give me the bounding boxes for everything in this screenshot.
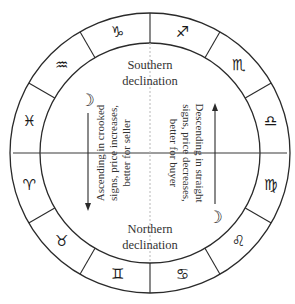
zodiac-declination-diagram: ♑︎♐︎♏︎♎︎♍︎♌︎♋︎♊︎♉︎♈︎♓︎♒︎ Southern declin… (0, 0, 295, 304)
taurus-icon: ♉︎ (55, 232, 68, 250)
gemini-icon: ♊︎ (111, 265, 124, 283)
pisces-icon: ♓︎ (23, 112, 36, 130)
right-text-line2: signs, price decreases, (181, 104, 193, 202)
sign-divider (29, 83, 55, 98)
southern-label-line1: Southern (127, 58, 173, 72)
northern-label-line2: declination (122, 238, 178, 252)
sign-divider (205, 248, 220, 274)
left-text-line1: Ascending in crooked (94, 104, 106, 201)
left-text-line2: signs, price increases, (107, 105, 119, 201)
left-text-line3: better for seller (120, 119, 132, 187)
southern-label-line2: declination (122, 74, 178, 88)
scorpio-icon: ♏︎ (232, 56, 246, 74)
sign-divider (29, 208, 55, 223)
leo-icon: ♌︎ (232, 232, 245, 250)
right-text-line3: better for buyer (168, 119, 180, 188)
sign-divider (245, 83, 271, 98)
arrow-up-icon (212, 103, 218, 111)
aquarius-icon: ♒︎ (55, 56, 68, 74)
right-rotated-text: Descending in straight signs, price decr… (168, 104, 206, 203)
sign-divider (205, 32, 220, 58)
sign-divider (80, 248, 95, 274)
aries-icon: ♈︎ (23, 176, 36, 194)
moon-icon-right: ☽ (207, 207, 222, 227)
left-rotated-text: Ascending in crooked signs, price increa… (94, 104, 132, 201)
cancer-icon: ♋︎ (176, 265, 189, 283)
sign-divider (80, 32, 95, 58)
arrow-down-icon (85, 203, 91, 211)
sign-divider (245, 208, 271, 223)
capricorn-icon: ♑︎ (111, 23, 124, 41)
moon-icon-left: ☽ (79, 90, 94, 110)
right-text-line1: Descending in straight (194, 104, 206, 203)
northern-label-line1: Northern (127, 222, 173, 236)
libra-icon: ♎︎ (264, 112, 277, 130)
sagittarius-icon: ♐︎ (176, 23, 189, 41)
virgo-icon: ♍︎ (264, 176, 277, 194)
